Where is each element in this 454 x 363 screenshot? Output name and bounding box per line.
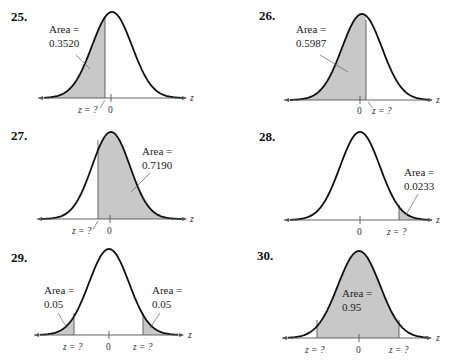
axis-variable: z [189,93,194,103]
axis-variable: z [435,95,440,105]
problem-25: 25. z 0 z = ? Area = 0.3520 [11,9,194,115]
leader-line-right [150,313,160,328]
axis-variable: z [189,214,194,224]
leader-line [368,102,373,108]
problem-number: 29. [11,250,27,265]
axis-arrow-right-icon [182,217,187,221]
problem-29: 29. z 0 z = ? z = ? Area = 0.05 Area = 0… [11,249,192,352]
area-label-value: 0.0233 [404,180,435,192]
axis-arrow-left-icon [37,217,42,221]
area-label-right-value: 0.05 [152,298,172,310]
problem-30: 30. z 0 z = ? z = ? Area = 0.95 [257,248,440,355]
axis-arrow-right-icon [179,333,184,337]
z-label: z = ? [77,105,98,115]
axis-arrow-right-icon [428,218,433,222]
zero-label: 0 [357,227,362,237]
area-label-right-line1: Area = [152,284,182,296]
z-label: z = ? [71,226,92,236]
area-label-value: 0.3520 [49,37,80,49]
axis-arrow-left-icon [284,98,289,102]
axis-arrow-left-icon [38,96,43,100]
leader-line [406,194,418,215]
area-label-line1: Area = [296,23,326,35]
problem-26: 26. z 0 z = ? Area = 0.5987 [259,8,440,116]
axis-variable: z [435,333,440,343]
area-label-value: 0.95 [342,301,362,313]
area-label-left-value: 0.05 [44,298,64,310]
normal-curve-exercises: 25. z 0 z = ? Area = 0.3520 26. z 0 z = … [0,0,454,363]
zero-label: 0 [108,105,113,115]
problem-28: 28. z 0 z = ? Area = 0.0233 [259,129,440,237]
axis-arrow-right-icon [182,96,187,100]
zero-label: 0 [107,226,112,236]
problem-number: 26. [259,8,275,23]
area-label-line1: Area = [142,145,172,157]
axis-variable: z [187,330,192,340]
z-label-left: z = ? [62,342,83,352]
zero-label: 0 [356,345,361,355]
leader-line [93,221,98,229]
problem-27: 27. z 0 z = ? Area = 0.7190 [11,128,194,236]
z-label: z = ? [386,227,407,237]
problem-number: 28. [259,129,275,144]
problem-number: 25. [11,9,27,24]
area-label-value: 0.7190 [142,159,173,171]
axis-arrow-left-icon [282,336,287,340]
zero-label: 0 [106,342,111,352]
leader-line [100,100,105,108]
axis-variable: z [435,215,440,225]
leader-line-left [58,313,67,328]
z-label-left: z = ? [304,345,325,355]
axis-arrow-left-icon [34,333,39,337]
area-label-line1: Area = [49,23,79,35]
z-label-right: z = ? [388,345,409,355]
axis-arrow-right-icon [428,98,433,102]
axis-arrow-right-icon [427,336,432,340]
zero-label: 0 [357,106,362,116]
area-label-line1: Area = [404,166,434,178]
z-label: z = ? [371,106,392,116]
problem-number: 27. [11,128,27,143]
z-label-right: z = ? [132,342,153,352]
area-label-value: 0.5987 [296,37,327,49]
area-label-left-line1: Area = [44,284,74,296]
area-label-line1: Area = [342,287,372,299]
axis-arrow-left-icon [284,218,289,222]
problem-number: 30. [257,248,273,263]
